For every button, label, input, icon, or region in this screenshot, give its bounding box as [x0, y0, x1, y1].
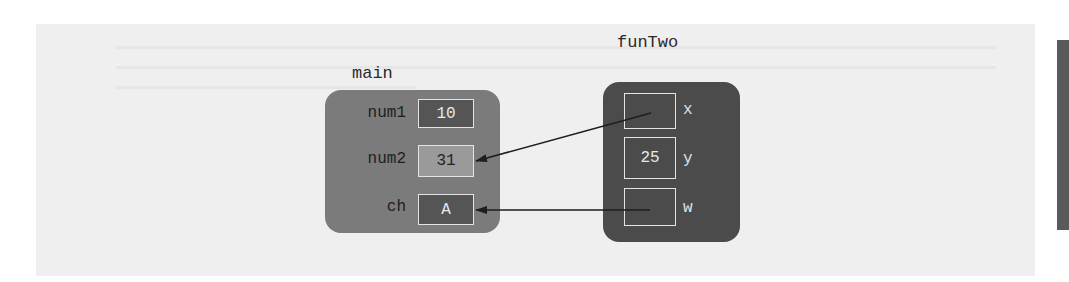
pointer-arrows	[0, 0, 1069, 282]
arrow-x-to-num2	[476, 113, 651, 161]
